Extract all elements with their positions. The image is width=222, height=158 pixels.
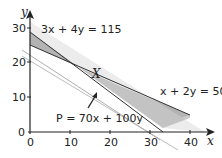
linear-programming-graph: 0 10 20 30 40 0 10 20 30 y x 3x + 4y = 1… [0,0,222,158]
y-tick-30: 30 [12,22,26,35]
objective-function-label: P = 70x + 100y [56,112,144,125]
y-tick-0: 0 [18,126,25,139]
y-axis-label: y [20,5,28,19]
arrow-head-icon [92,92,97,98]
x-tick-20: 20 [104,136,118,149]
line-x-2y-50 [30,45,190,115]
equation-3x-4y-115: 3x + 4y = 115 [41,23,121,36]
equation-x-2y-50: x + 2y = 50 [160,85,222,98]
x-axis-label: x [207,134,214,148]
y-tick-20: 20 [12,56,26,69]
x-tick-10: 10 [64,136,78,149]
y-tick-10: 10 [12,91,26,104]
x-tick-40: 40 [184,136,198,149]
x-tick-30: 30 [144,136,158,149]
x-tick-0: 0 [27,136,34,149]
point-x-label: X [91,67,101,81]
